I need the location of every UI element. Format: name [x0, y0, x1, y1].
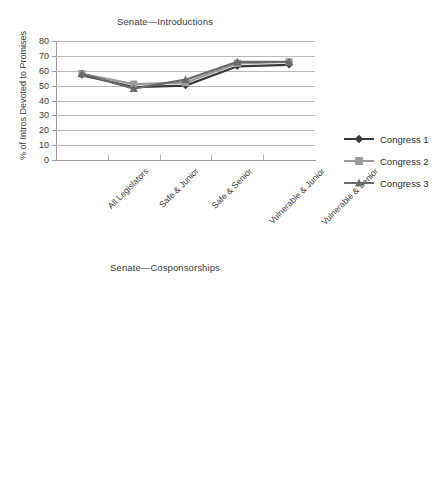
legend-marker-triangle-icon [344, 176, 374, 190]
series-layer [0, 246, 442, 492]
legend-item[interactable]: Congress 3 [344, 172, 429, 194]
legend-item[interactable]: Congress 2 [344, 150, 429, 172]
chart-senate-cosponsorships: Senate—Cosponsorships% of Cosp Devoted t… [0, 246, 442, 492]
legend-label: Congress 2 [380, 156, 429, 167]
chart-legend: Congress 1Congress 2Congress 3 [344, 128, 429, 194]
legend-label: Congress 1 [380, 134, 429, 145]
legend-label: Congress 3 [380, 178, 429, 189]
legend-item[interactable]: Congress 1 [344, 128, 429, 150]
legend-marker-square-icon [344, 154, 374, 168]
legend-marker-diamond-icon [344, 132, 374, 146]
chart-senate-introductions: Senate—Introductions% of Intros Devoted … [0, 0, 442, 246]
series-layer [0, 0, 442, 246]
